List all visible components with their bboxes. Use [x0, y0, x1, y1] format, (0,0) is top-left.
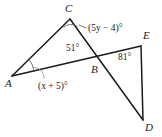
angle-label-at-C: (5y − 4)°: [88, 24, 122, 34]
segment-C-D: [70, 19, 143, 120]
vertex-label-A: A: [5, 78, 12, 89]
angle-label-at-B-text: 51°: [66, 43, 79, 53]
angle-label-at-C-text: (5y − 4)°: [88, 23, 122, 33]
segment-A-C: [12, 19, 70, 76]
vertex-label-D: D: [145, 122, 153, 133]
angle-label-at-A-text: (x + 5)°: [38, 81, 68, 91]
geometry-diagram-svg: [0, 0, 162, 137]
angle-label-at-B: 51°: [66, 44, 79, 54]
angle-label-at-E-text: 81°: [118, 52, 131, 62]
angle-label-at-A: (x + 5)°: [38, 82, 68, 92]
geometry-figure: A B C D E (5y − 4)° 51° (x + 5)° 81°: [0, 0, 162, 137]
angle-arc-at-A: [29, 60, 34, 72]
leader-line-angle-C: [79, 25, 86, 28]
vertex-label-C: C: [65, 3, 72, 14]
angle-label-at-E: 81°: [118, 53, 131, 63]
vertex-label-E: E: [143, 30, 150, 41]
vertex-label-B: B: [91, 64, 98, 75]
segment-E-D: [141, 46, 143, 120]
